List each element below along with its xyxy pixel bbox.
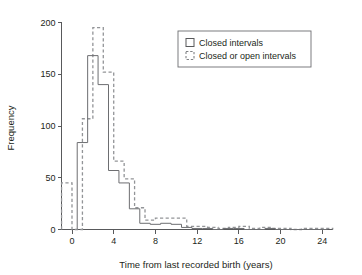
chart-plot-area: 050100150200 04812162024 Time from last … — [0, 0, 362, 275]
x-tick-label-24: 24 — [317, 236, 327, 246]
y-tick-label-150: 150 — [40, 69, 55, 79]
x-axis-ticks: 04812162024 — [69, 230, 327, 246]
x-tick-label-20: 20 — [276, 236, 286, 246]
x-tick-label-4: 4 — [111, 236, 116, 246]
y-tick-label-0: 0 — [50, 225, 55, 235]
x-tick-label-8: 8 — [153, 236, 158, 246]
x-tick-label-0: 0 — [69, 236, 74, 246]
series-closed-intervals — [77, 56, 327, 230]
y-tick-label-50: 50 — [45, 173, 55, 183]
legend-border — [178, 31, 311, 67]
y-tick-label-100: 100 — [40, 121, 55, 131]
chart-figure: 050100150200 04812162024 Time from last … — [0, 0, 362, 275]
x-axis-title: Time from last recorded birth (years) — [119, 259, 272, 270]
x-tick-label-16: 16 — [234, 236, 244, 246]
legend-label-closed-or-open-intervals: Closed or open intervals — [199, 51, 297, 61]
y-axis-title: Frequency — [5, 105, 16, 150]
chart-legend: Closed intervals Closed or open interval… — [178, 31, 311, 67]
x-tick-label-12: 12 — [192, 236, 202, 246]
legend-label-closed-intervals: Closed intervals — [199, 38, 264, 48]
y-tick-label-200: 200 — [40, 18, 55, 28]
y-axis-ticks: 050100150200 — [40, 18, 61, 235]
